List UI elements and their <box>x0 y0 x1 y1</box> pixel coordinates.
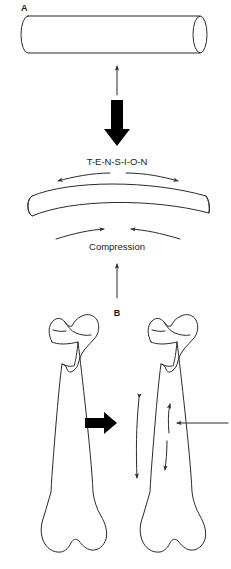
tension-arrow-left <box>58 173 110 181</box>
femur-tension-arrow <box>136 398 139 478</box>
femur-unloaded <box>41 315 106 553</box>
tension-arrow-right <box>126 173 178 181</box>
compression-arrow-left <box>56 229 104 239</box>
femur-loaded <box>140 315 205 553</box>
tension-label: T-E-N-S-I-O-N <box>87 156 148 167</box>
panel-label-a: A <box>21 3 28 13</box>
straight-cylinder <box>21 16 207 53</box>
panel-label-b: B <box>114 308 121 318</box>
figure-container: A T-E-N-S-I-O-N Compression B <box>0 0 231 569</box>
bone-loading-diagram: A T-E-N-S-I-O-N Compression B <box>0 0 231 569</box>
compression-arrow-right <box>131 229 180 239</box>
thick-down-arrow-load <box>104 100 130 146</box>
thick-right-arrow-load <box>85 412 117 434</box>
bent-cylinder <box>28 184 209 216</box>
compression-label: Compression <box>89 241 145 252</box>
